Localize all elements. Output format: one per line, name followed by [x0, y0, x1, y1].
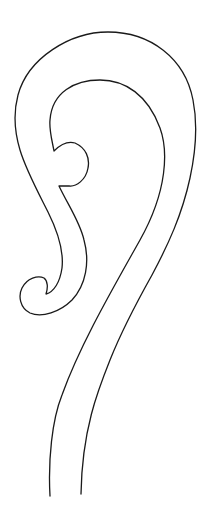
scroll-curl-drawing — [0, 0, 212, 526]
drawing-canvas — [0, 0, 212, 526]
outer-contour — [15, 32, 196, 496]
